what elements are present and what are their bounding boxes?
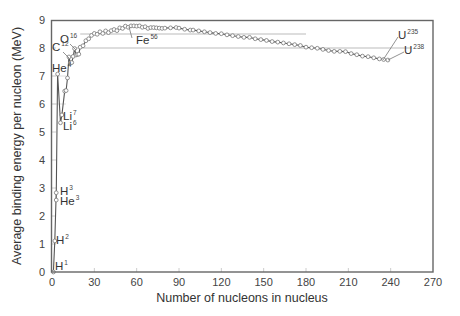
isotope-label-h1: H1 bbox=[55, 259, 68, 272]
y-tick-labels: 0123456789 bbox=[39, 14, 45, 278]
data-point bbox=[321, 48, 325, 52]
data-point bbox=[214, 32, 218, 36]
data-point bbox=[332, 49, 336, 53]
data-point bbox=[276, 40, 280, 44]
data-point bbox=[298, 44, 302, 48]
data-point bbox=[310, 46, 314, 50]
data-point bbox=[77, 52, 81, 56]
data-point bbox=[282, 41, 286, 45]
data-point bbox=[183, 27, 187, 31]
y-tick-label: 1 bbox=[39, 238, 45, 250]
y-tick-label: 5 bbox=[39, 126, 45, 138]
data-point bbox=[265, 39, 269, 43]
x-tick-label: 270 bbox=[424, 276, 442, 288]
data-point bbox=[191, 28, 195, 32]
y-tick-label: 9 bbox=[39, 14, 45, 26]
y-tick-label: 2 bbox=[39, 210, 45, 222]
x-tick-label: 150 bbox=[254, 276, 272, 288]
data-point bbox=[366, 55, 370, 59]
y-tick-label: 6 bbox=[39, 98, 45, 110]
data-point bbox=[169, 26, 173, 30]
x-tick-label: 90 bbox=[173, 276, 185, 288]
binding-energy-line bbox=[53, 26, 387, 272]
isotope-label-h2: H2 bbox=[56, 233, 69, 246]
data-point bbox=[197, 29, 201, 33]
x-tick-label: 180 bbox=[297, 276, 315, 288]
y-tick-label: 7 bbox=[39, 70, 45, 82]
data-point bbox=[293, 43, 297, 47]
data-point bbox=[349, 52, 353, 56]
data-point bbox=[315, 46, 319, 50]
data-point bbox=[219, 32, 223, 36]
data-point bbox=[355, 53, 359, 57]
x-tick-label: 0 bbox=[49, 276, 55, 288]
isotope-label-he4: He4 bbox=[52, 61, 72, 74]
y-tick-label: 3 bbox=[39, 182, 45, 194]
axis-ticks bbox=[52, 48, 391, 272]
data-point bbox=[225, 33, 229, 37]
data-point bbox=[304, 45, 308, 49]
data-point bbox=[242, 35, 246, 39]
data-point bbox=[287, 42, 291, 46]
x-tick-label: 60 bbox=[131, 276, 143, 288]
data-point bbox=[270, 40, 274, 44]
data-point bbox=[203, 30, 207, 34]
isotope-labels: H1H2H3He3He4Li7Li6C12O16Fe56U235U238 bbox=[52, 27, 425, 272]
isotope-label-u235: U235 bbox=[398, 28, 419, 41]
isotope-label-li6: Li6 bbox=[63, 119, 77, 132]
data-point bbox=[344, 50, 348, 54]
x-tick-label: 240 bbox=[381, 276, 399, 288]
data-point bbox=[177, 26, 181, 30]
y-tick-label: 4 bbox=[39, 154, 45, 166]
x-tick-labels: 0306090120150180210240270 bbox=[49, 276, 442, 288]
data-point bbox=[54, 191, 58, 195]
label-leader-line bbox=[129, 27, 132, 38]
binding-energy-chart: 0306090120150180210240270 0123456789 H1H… bbox=[0, 0, 460, 316]
data-point bbox=[66, 76, 70, 80]
data-point bbox=[259, 38, 263, 42]
isotope-label-he3: He3 bbox=[60, 194, 80, 207]
data-point bbox=[231, 34, 235, 38]
data-point bbox=[377, 57, 381, 61]
data-point bbox=[372, 56, 376, 60]
data-point bbox=[81, 44, 85, 48]
data-point bbox=[386, 58, 390, 62]
isotope-label-fe56: Fe56 bbox=[136, 33, 158, 46]
x-tick-label: 120 bbox=[212, 276, 230, 288]
data-point bbox=[208, 31, 212, 35]
x-tick-label: 210 bbox=[339, 276, 357, 288]
label-leader-line bbox=[388, 52, 404, 60]
y-tick-label: 8 bbox=[39, 42, 45, 54]
x-tick-label: 30 bbox=[88, 276, 100, 288]
data-point bbox=[64, 89, 68, 93]
data-point bbox=[361, 54, 365, 58]
data-point bbox=[338, 49, 342, 53]
data-point bbox=[54, 198, 58, 202]
isotope-label-o16: O16 bbox=[60, 32, 78, 45]
data-point bbox=[248, 35, 252, 39]
isotope-label-u238: U238 bbox=[404, 43, 425, 56]
data-point bbox=[163, 26, 167, 30]
data-series bbox=[52, 24, 390, 274]
y-axis-title: Average binding energy per nucleon (MeV) bbox=[10, 27, 24, 265]
data-point bbox=[327, 49, 331, 53]
data-point bbox=[253, 37, 257, 41]
x-axis-title: Number of nucleons in nucleus bbox=[156, 291, 328, 305]
data-point bbox=[236, 35, 240, 39]
data-point bbox=[59, 121, 63, 125]
y-tick-label: 0 bbox=[39, 266, 45, 278]
data-point bbox=[87, 37, 91, 41]
